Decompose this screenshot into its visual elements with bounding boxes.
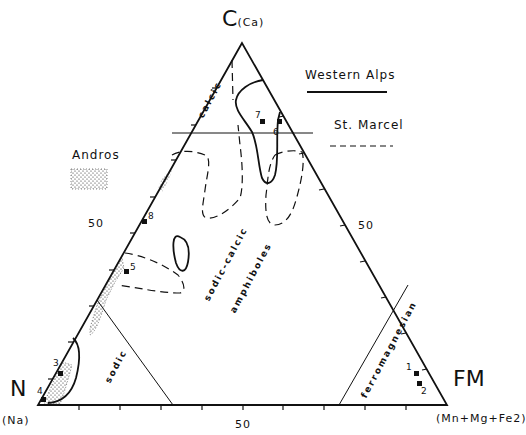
legend-andros-label: Andros [72,148,120,162]
data-point-5 [124,269,129,274]
point-label-3: 3 [53,358,59,368]
vertex-c-symbol: C [222,6,237,31]
point-label-1: 1 [406,362,412,372]
andros-field-middle [90,258,124,335]
left-edge-50-label: 50 [88,217,104,230]
st-marcel-field-right [266,151,303,225]
point-label-8: 8 [148,211,154,221]
point-label-6: 6 [273,127,279,137]
legend-st-marcel-label: St. Marcel [334,118,404,132]
andros-field-upper [158,170,172,192]
vertex-fm-sub: (Mn+Mg+Fe2) [436,412,526,425]
data-point-8 [142,219,147,224]
vertex-n-label: N [10,376,26,401]
bottom-edge-50-label: 50 [235,418,251,431]
sodic-boundary-line [97,300,173,405]
point-label-7: 7 [255,110,261,120]
legend-andros-swatch [71,169,107,189]
legend-western-alps-label: Western Alps [305,68,395,82]
data-point-1 [414,371,419,376]
vertex-c-label: C(Ca) [222,6,264,31]
data-point-6 [277,119,282,124]
western-alps-field-middle [173,236,188,271]
st-marcel-field-left [172,125,242,218]
vertex-fm-label: FM [453,366,485,391]
data-point-4 [41,397,46,402]
data-point-3 [58,371,63,376]
vertex-n-sub: (Na) [2,414,30,427]
st-marcel-field-apex [232,60,233,100]
point-label-2: 2 [421,386,427,396]
right-edge-50-label: 50 [358,219,374,232]
point-label-5: 5 [130,262,136,272]
point-label-4: 4 [37,386,43,396]
data-point-7 [260,119,265,124]
vertex-c-sub: (Ca) [237,16,264,29]
